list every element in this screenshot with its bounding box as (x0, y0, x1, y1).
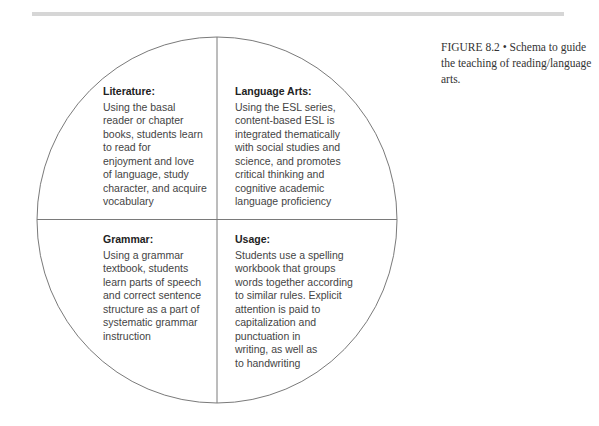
quadrant-language-arts: Language Arts: Using the ESL series, con… (235, 85, 360, 209)
quadrant-body: Using the basal reader or chapter books,… (103, 101, 215, 209)
figure-caption: FIGURE 8.2 • Schema to guide the teachin… (441, 39, 599, 87)
quadrant-title: Usage: (235, 233, 365, 247)
quadrant-title: Language Arts: (235, 85, 360, 99)
quadrant-usage: Usage: Students use a spelling workbook … (235, 233, 365, 370)
quadrant-body: Using a grammar textbook, students learn… (103, 249, 215, 344)
quadrant-body: Using the ESL series, content-based ESL … (235, 101, 360, 209)
quadrant-literature: Literature: Using the basal reader or ch… (103, 85, 215, 209)
quadrant-body: Students use a spelling workbook that gr… (235, 249, 365, 371)
quadrant-grammar: Grammar: Using a grammar textbook, stude… (103, 233, 215, 343)
quadrant-title: Grammar: (103, 233, 215, 247)
quadrant-title: Literature: (103, 85, 215, 99)
